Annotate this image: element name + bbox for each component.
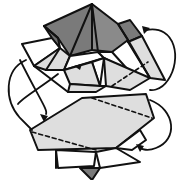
bottom-point <box>80 168 100 180</box>
origami-diagram <box>0 0 184 180</box>
arrowhead-right-icon <box>136 144 144 152</box>
left-diagonal-arrow <box>18 74 58 104</box>
